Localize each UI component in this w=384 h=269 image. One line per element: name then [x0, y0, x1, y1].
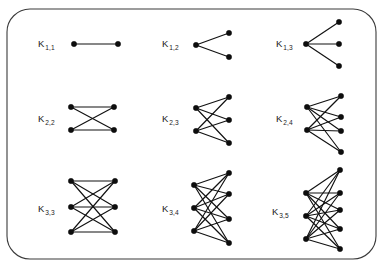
graph-node-right	[337, 226, 342, 231]
graph-node-right	[336, 63, 341, 68]
graph-label-base: K	[38, 38, 45, 49]
graph-node-right	[226, 94, 231, 99]
graph-node-left	[191, 182, 196, 187]
graph-node-right	[115, 41, 120, 46]
graph-node-right	[111, 104, 116, 109]
graph-node-right	[112, 204, 117, 209]
graph-node-left	[68, 229, 73, 234]
graph-node-right	[226, 240, 231, 245]
graph-node-left	[303, 190, 308, 195]
graph-node-right	[337, 207, 342, 212]
graph-node-right	[337, 246, 342, 251]
graph-label-base: K	[276, 113, 283, 124]
graph-node-left	[68, 178, 73, 183]
graph-label-subscript: 1,2	[169, 44, 179, 51]
graph-node-right	[112, 229, 117, 234]
graph-node-right	[338, 128, 343, 133]
graph-node-right	[337, 190, 342, 195]
graph-label-subscript: 3,3	[45, 209, 55, 216]
graph-node-left	[303, 213, 308, 218]
graph-node-right	[338, 93, 343, 98]
graph-node-right	[226, 117, 231, 122]
graph-node-right	[226, 54, 231, 59]
graph-label-base: K	[162, 203, 169, 214]
graph-node-left	[193, 42, 198, 47]
graph-node-left	[303, 41, 308, 46]
graph-node-right	[338, 149, 343, 154]
graph-node-right	[337, 167, 342, 172]
graph-node-right	[112, 178, 117, 183]
graph-label-base: K	[162, 113, 169, 124]
graph-node-right	[226, 140, 231, 145]
graph-node-right	[226, 191, 231, 196]
graph-node-right	[338, 114, 343, 119]
graph-label-base: K	[272, 206, 279, 217]
graph-node-left	[71, 41, 76, 46]
graph-node-right	[111, 127, 116, 132]
graph-label-subscript: 3,4	[169, 209, 179, 216]
graph-node-right	[336, 41, 341, 46]
graph-node-left	[191, 205, 196, 210]
graph-node-right	[336, 19, 341, 24]
graph-label-subscript: 1,1	[45, 44, 55, 51]
graph-node-left	[193, 105, 198, 110]
graph-label-base: K	[38, 113, 45, 124]
graph-label-subscript: 2,3	[169, 119, 179, 126]
graph-label-subscript: 2,2	[45, 119, 55, 126]
graph-label-subscript: 3,5	[279, 212, 289, 219]
graph-node-left	[68, 127, 73, 132]
graph-label-base: K	[276, 38, 283, 49]
graph-label-subscript: 1,3	[283, 44, 293, 51]
bipartite-graphs-figure: K1,1K1,2K1,3K2,2K2,3K2,4K3,3K3,4K3,5	[0, 0, 384, 269]
graph-node-right	[226, 170, 231, 175]
graph-node-left	[304, 127, 309, 132]
graph-node-left	[68, 104, 73, 109]
graph-node-right	[226, 30, 231, 35]
graph-node-left	[191, 228, 196, 233]
graph-label-subscript: 2,4	[283, 119, 293, 126]
graph-label-base: K	[162, 38, 169, 49]
graph-node-left	[304, 104, 309, 109]
graph-node-left	[193, 128, 198, 133]
figure-container: K1,1K1,2K1,3K2,2K2,3K2,4K3,3K3,4K3,5	[0, 0, 384, 269]
graph-node-right	[226, 216, 231, 221]
graph-node-left	[68, 204, 73, 209]
graph-node-left	[303, 236, 308, 241]
graph-label-base: K	[38, 203, 45, 214]
